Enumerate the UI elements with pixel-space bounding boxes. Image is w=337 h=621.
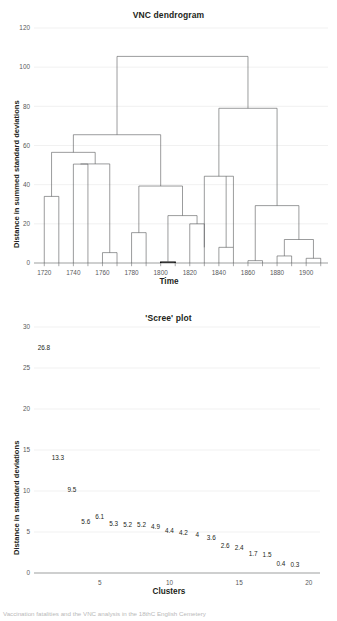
scree-y-tick-label: 15 [23,446,31,453]
dendrogram-merge [219,108,277,205]
dendrogram-x-tick-label: 1760 [95,269,110,276]
scree-data-label: 3.6 [207,534,216,541]
scree-data-label: 0.3 [290,561,299,568]
vnc-dendrogram-figure: VNC dendrogram Distance in summed standa… [0,0,337,300]
dendrogram-x-tick-label: 1720 [37,269,52,276]
dendrogram-link [284,240,313,259]
scree-data-label: 6.1 [95,513,104,520]
dendrogram-link [73,135,160,186]
scree-data-label: 2.6 [221,542,230,549]
dendrogram-merge [168,216,197,263]
dendrogram-link [132,233,147,263]
dendrogram-x-tick-label: 1740 [66,269,81,276]
dendrogram-link [277,256,292,263]
dendrogram-merge [139,186,183,233]
scree-x-tick-label: 5 [98,579,102,586]
scree-x-tick-label: 20 [305,579,313,586]
dendrogram-link [73,164,88,263]
scree-y-tick-label: 25 [23,364,31,371]
scree-x-tick-label: 10 [166,579,174,586]
scree-data-label: 26.8 [38,344,51,351]
dendrogram-merge [117,56,248,134]
scree-y-tick-label: 30 [23,323,31,330]
dendrogram-y-tick-label: 40 [23,181,31,188]
dendrogram-merge [248,261,263,263]
dendrogram-link [117,56,248,134]
scree-data-label: 5.2 [123,521,132,528]
scree-data-label: 4.2 [179,529,188,536]
dendrogram-merge [73,135,160,186]
scree-y-tick-label: 5 [26,528,30,535]
scree-y-tick-label: 20 [23,405,31,412]
dendrogram-link [219,108,277,205]
dendrogram-y-tick-label: 0 [26,259,30,266]
dendrogram-link [139,186,183,233]
dendrogram-link [168,216,197,263]
dendrogram-x-tick-label: 1860 [241,269,256,276]
dendrogram-merge [102,253,117,263]
dendrogram-y-tick-label: 120 [19,24,30,31]
dendrogram-merge [277,256,292,263]
scree-data-label: 5.2 [137,521,146,528]
dendrogram-y-tick-label: 20 [23,220,31,227]
dendrogram-link [255,206,299,261]
dendrogram-x-tick-label: 1820 [183,269,198,276]
dendrogram-merge [306,258,321,263]
dendrogram-link [306,258,321,263]
scree-y-tick-label: 0 [26,569,30,576]
dendrogram-merge [284,240,313,259]
dendrogram-x-tick-label: 1880 [270,269,285,276]
scree-data-label: 2.4 [235,544,244,551]
dendrogram-link [102,253,117,263]
scree-data-label: 4.9 [151,523,160,530]
scree-plot-area: 051015202530510152026.813.39.55.66.15.35… [0,305,337,605]
dendrogram-y-tick-label: 80 [23,103,31,110]
scree-data-label: 0.4 [277,560,286,567]
dendrogram-merge [44,196,59,263]
dendrogram-merge [219,247,234,263]
page-footer-text: Vaccination fatalities and the VNC analy… [0,609,337,618]
dendrogram-link [44,196,59,263]
dendrogram-x-tick-label: 1840 [212,269,227,276]
dendrogram-x-tick-label: 1800 [154,269,169,276]
scree-data-label: 9.5 [67,486,76,493]
scree-data-label: 1.7 [249,550,258,557]
dendrogram-merge [81,164,110,253]
scree-y-tick-label: 10 [23,487,31,494]
scree-data-label: 4.4 [165,527,174,534]
scree-data-label: 5.6 [81,518,90,525]
dendrogram-merge [73,164,88,263]
dendrogram-link [219,247,234,263]
scree-x-tick-label: 15 [236,579,244,586]
dendrogram-x-tick-label: 1780 [124,269,139,276]
dendrogram-plot-area: 0204060801001201720174017601780180018201… [0,0,337,300]
scree-data-label: 4 [196,531,200,538]
dendrogram-link [190,224,205,263]
scree-data-label: 5.3 [109,520,118,527]
dendrogram-merge [255,206,299,261]
dendrogram-link [248,261,263,263]
dendrogram-x-tick-label: 1900 [299,269,314,276]
scree-data-label: 1.5 [263,551,272,558]
scree-data-label: 13.3 [52,454,65,461]
dendrogram-merge [132,233,147,263]
scree-plot-figure: 'Scree' plot Distance in standard deviat… [0,305,337,605]
dendrogram-link [81,164,110,253]
dendrogram-merge [190,224,205,263]
dendrogram-y-tick-label: 60 [23,142,31,149]
dendrogram-y-tick-label: 100 [19,63,30,70]
